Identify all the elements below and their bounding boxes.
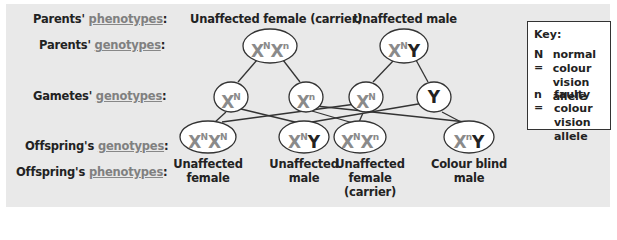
allele-sup: N xyxy=(233,92,241,102)
allele-sup: n xyxy=(283,41,289,51)
parent-male-genotype: XNY xyxy=(380,36,428,61)
key-desc-line: vision allele xyxy=(554,116,610,144)
allele: X xyxy=(454,132,467,152)
phenotype-line: Unaffected xyxy=(168,157,248,171)
key-entry-faulty: n = faulty colour vision allele xyxy=(534,88,610,144)
gamete-4: Y xyxy=(417,87,451,107)
allele: Y xyxy=(308,132,320,152)
allele-sup: N xyxy=(400,41,408,51)
offspring-3-genotype: XNXn xyxy=(334,127,386,152)
phenotype-line: Colour blind xyxy=(424,157,514,171)
allele: X xyxy=(271,41,284,61)
allele-sup: N xyxy=(300,132,308,142)
key-symbol: n = xyxy=(534,88,554,144)
allele: Y xyxy=(408,41,420,61)
gamete-1: XN xyxy=(214,87,248,112)
allele: X xyxy=(297,92,310,112)
phenotype-line: female xyxy=(330,171,410,185)
allele-sup: N xyxy=(353,132,361,142)
key-desc-line: faulty colour xyxy=(554,88,610,116)
gamete-3: XN xyxy=(349,87,383,112)
gamete-2: Xn xyxy=(289,87,323,112)
key-title: Key: xyxy=(534,28,561,41)
phenotype-line: male xyxy=(424,171,514,185)
offspring-4-phenotype: Colour blind male xyxy=(424,157,514,185)
allele-sup: n xyxy=(373,132,379,142)
offspring-2-genotype: XNY xyxy=(279,127,329,152)
key-box: Key: N = normal colour vision allele n =… xyxy=(527,21,611,130)
allele-sup: n xyxy=(309,92,315,102)
phenotype-line: (carrier) xyxy=(330,185,410,199)
offspring-1-genotype: XNXN xyxy=(180,127,236,152)
offspring-1-phenotype: Unaffected female xyxy=(168,157,248,185)
offspring-4-genotype: XnY xyxy=(444,127,494,152)
allele-sup: N xyxy=(263,41,271,51)
phenotype-line: Unaffected xyxy=(330,157,410,171)
key-desc-line: normal colour xyxy=(553,48,610,76)
key-description: faulty colour vision allele xyxy=(554,88,610,144)
phenotype-line: female xyxy=(168,171,248,185)
parent-female-genotype: XNXn xyxy=(243,36,297,61)
allele: Y xyxy=(472,132,484,152)
allele-sup: N xyxy=(368,92,376,102)
offspring-3-phenotype: Unaffected female (carrier) xyxy=(330,157,410,199)
allele-sup: N xyxy=(220,132,228,142)
allele-sup: N xyxy=(200,132,208,142)
allele: Y xyxy=(428,87,440,107)
allele: X xyxy=(361,132,374,152)
